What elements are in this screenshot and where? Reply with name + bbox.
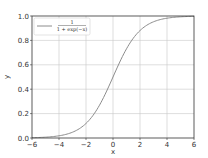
x-tick-label: −4: [54, 141, 65, 149]
x-tick-label: 4: [165, 141, 170, 149]
y-tick-label: 0.6: [18, 61, 30, 69]
legend-denominator: 1 + exp(−x): [57, 26, 87, 33]
x-tick-label: 6: [192, 141, 197, 149]
legend: 1 1 + exp(−x): [34, 18, 90, 35]
legend-numerator: 1: [70, 19, 73, 25]
y-tick-label: 0.2: [18, 110, 29, 118]
y-tick-label: 0.4: [18, 86, 30, 94]
x-tick-label: 2: [138, 141, 142, 149]
y-tick-label: 0.0: [18, 135, 29, 143]
x-axis-label: x: [111, 148, 115, 156]
x-tick-label: −2: [81, 141, 91, 149]
y-tick-label: 1.0: [18, 13, 29, 21]
sigmoid-chart: −6−4−20246 0.00.20.40.60.81.0 x y 1 1 + …: [0, 0, 208, 158]
y-axis-ticks: 0.00.20.40.60.81.0: [18, 13, 32, 143]
y-axis-label: y: [3, 75, 11, 79]
y-tick-label: 0.8: [18, 37, 29, 45]
